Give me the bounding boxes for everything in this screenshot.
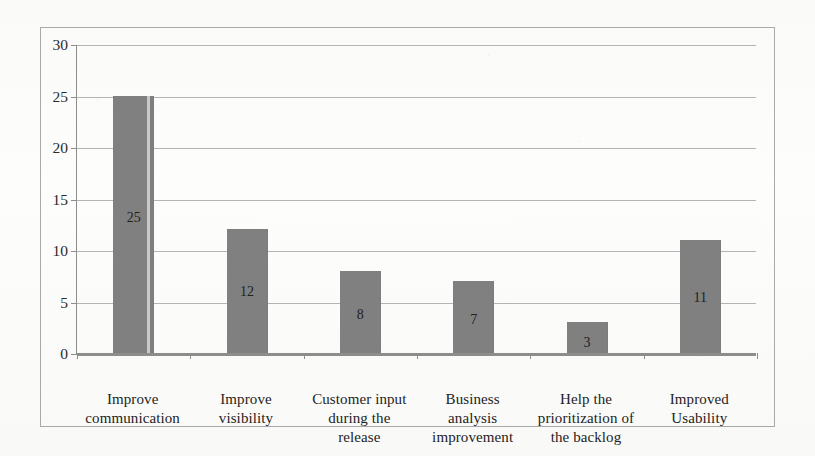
- bar-5: 3: [567, 322, 608, 353]
- gridline-15: [77, 200, 756, 201]
- y-tick-mark-10: [71, 251, 77, 252]
- bar-4: 7: [453, 281, 494, 353]
- y-axis-label-10: 10: [53, 243, 69, 259]
- gridline-30: [77, 45, 756, 46]
- category-label-line: Improve: [68, 390, 197, 409]
- chart-frame: 051015202530 251287311 Improvecommunicat…: [40, 27, 775, 427]
- y-axis-label-15: 15: [53, 192, 69, 208]
- category-label-line: release: [295, 428, 424, 447]
- x-tick-mark-1: [190, 353, 191, 359]
- category-label-line: Improve: [181, 390, 310, 409]
- bar-value-label-1: 25: [127, 211, 141, 225]
- y-tick-mark-30: [71, 45, 77, 46]
- y-tick-mark-20: [71, 148, 77, 149]
- x-tick-mark-6: [757, 353, 758, 359]
- category-label-1: Improvecommunication: [68, 390, 197, 428]
- bar-2: 12: [227, 229, 268, 353]
- y-axis-label-0: 0: [60, 346, 68, 362]
- category-label-line: Usability: [635, 409, 764, 428]
- gridline-25: [77, 97, 756, 98]
- y-axis-label-5: 5: [60, 295, 68, 311]
- y-axis-label-30: 30: [53, 37, 69, 53]
- category-label-line: Customer input: [295, 390, 424, 409]
- x-tick-mark-2: [304, 353, 305, 359]
- category-label-line: analysis: [408, 409, 537, 428]
- y-tick-mark-25: [71, 97, 77, 98]
- category-label-4: Businessanalysisimprovement: [408, 390, 537, 447]
- category-label-line: communication: [68, 409, 197, 428]
- y-axis-label-20: 20: [53, 140, 69, 156]
- gridline-5: [77, 303, 756, 304]
- gridline-10: [77, 251, 756, 252]
- category-label-line: improvement: [408, 428, 537, 447]
- scan-streak: [147, 96, 150, 354]
- bar-6: 11: [680, 240, 721, 353]
- category-label-5: Help theprioritization ofthe backlog: [521, 390, 650, 447]
- category-label-3: Customer inputduring therelease: [295, 390, 424, 447]
- bar-1: 25: [113, 96, 154, 354]
- category-label-2: Improvevisibility: [181, 390, 310, 428]
- gridline-20: [77, 148, 756, 149]
- bar-3: 8: [340, 271, 381, 353]
- category-label-line: Improved: [635, 390, 764, 409]
- y-axis-label-25: 25: [53, 89, 69, 105]
- x-tick-mark-0: [77, 353, 78, 359]
- category-label-line: the backlog: [521, 428, 650, 447]
- category-label-line: Help the: [521, 390, 650, 409]
- x-tick-mark-5: [644, 353, 645, 359]
- category-label-line: prioritization of: [521, 409, 650, 428]
- category-label-line: Business: [408, 390, 537, 409]
- y-tick-mark-5: [71, 303, 77, 304]
- plot-area: 051015202530 251287311: [76, 45, 756, 354]
- category-label-line: during the: [295, 409, 424, 428]
- x-tick-mark-4: [530, 353, 531, 359]
- category-label-6: ImprovedUsability: [635, 390, 764, 428]
- bar-value-label-2: 12: [240, 285, 254, 299]
- bar-value-label-6: 11: [694, 291, 707, 305]
- category-label-line: visibility: [181, 409, 310, 428]
- x-tick-mark-3: [417, 353, 418, 359]
- bar-value-label-4: 7: [470, 313, 477, 327]
- bar-value-label-5: 3: [584, 336, 591, 350]
- y-tick-mark-15: [71, 200, 77, 201]
- bar-value-label-3: 8: [357, 308, 364, 322]
